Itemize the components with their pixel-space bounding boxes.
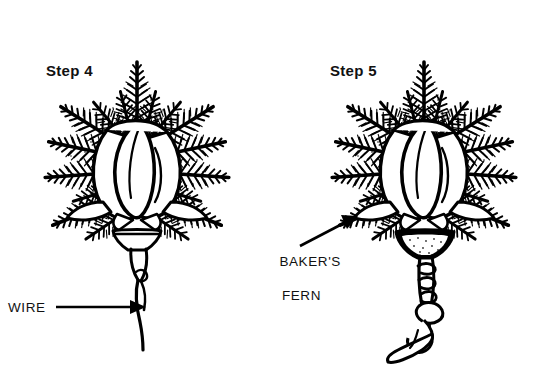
step-5-figure: [331, 62, 517, 362]
step4-wire-stem: [131, 249, 147, 350]
step-5-label: Step 5: [330, 62, 377, 79]
bakers-fern-label-line2: FERN: [262, 287, 341, 304]
bakers-fern-label: BAKER'S FERN: [262, 236, 341, 338]
wire-callout-arrow: [56, 300, 146, 314]
step-4-label: Step 4: [46, 62, 93, 79]
step5-fern-collar: [396, 230, 454, 258]
illustration-canvas: Step 4 Step 5 WIRE BAKER'S FERN: [0, 0, 540, 383]
step4-receptacle: [113, 230, 161, 251]
step5-ribbon-tail: [387, 320, 432, 362]
bakers-fern-label-line1: BAKER'S: [279, 254, 341, 269]
wire-label: WIRE: [8, 300, 46, 315]
